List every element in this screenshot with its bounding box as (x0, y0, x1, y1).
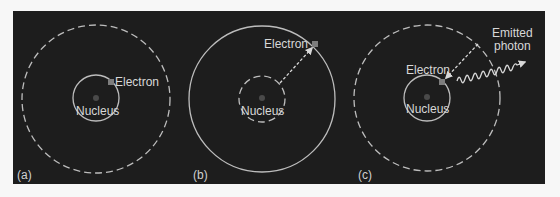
electron-label: Electron (406, 63, 450, 77)
electron-dot (108, 79, 114, 85)
electron-dot (312, 41, 318, 47)
nucleus-label: Nucleus (406, 102, 449, 116)
nucleus-label: Nucleus (241, 104, 284, 118)
photon-label-line1: Emitted (492, 26, 533, 40)
photon-label-line2: photon (494, 39, 531, 53)
panel-label: (a) (17, 168, 32, 182)
nucleus-dot (424, 94, 430, 100)
electron-label: Electron (264, 37, 308, 51)
panel-label: (c) (358, 168, 372, 182)
atom-orbit-diagram: Electron Nucleus (a) Electron Nucleus (b… (0, 0, 560, 197)
panel-label: (b) (193, 168, 208, 182)
nucleus-label: Nucleus (76, 104, 119, 118)
nucleus-dot (259, 95, 265, 101)
electron-dot (439, 79, 445, 85)
nucleus-dot (93, 95, 99, 101)
electron-label: Electron (115, 75, 159, 89)
